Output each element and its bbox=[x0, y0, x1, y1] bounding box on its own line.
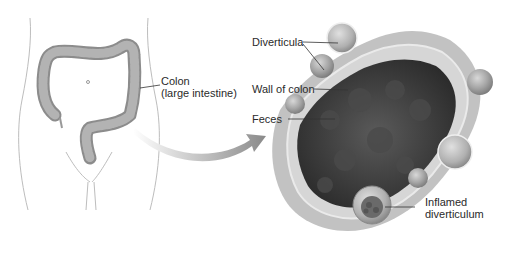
label-inflamed-diverticulum: Inflamed diverticulum bbox=[425, 196, 484, 220]
colon-illustration bbox=[43, 45, 135, 158]
diagram-canvas: Colon (large intestine) Diverticula Wall… bbox=[0, 0, 507, 261]
label-diverticula: Diverticula bbox=[252, 36, 303, 48]
label-feces: Feces bbox=[252, 113, 282, 125]
label-colon: Colon (large intestine) bbox=[161, 75, 237, 99]
pointer-arrow bbox=[133, 128, 266, 161]
label-wall-of-colon: Wall of colon bbox=[252, 83, 315, 95]
